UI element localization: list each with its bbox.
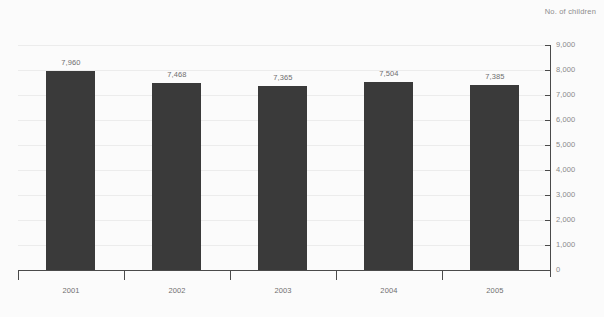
y-axis-label-4000: 4,000	[556, 165, 575, 174]
x-axis-label-2001: 2001	[41, 286, 101, 295]
x-axis-label-2003: 2003	[253, 286, 313, 295]
y-axis-label-0: 0	[556, 265, 560, 274]
y-axis-label-7000: 7,000	[556, 90, 575, 99]
y-axis-tick	[545, 245, 550, 246]
x-axis-tick	[230, 271, 231, 280]
y-axis-tick	[545, 145, 550, 146]
y-axis-tick	[545, 95, 550, 96]
y-axis-tick	[545, 195, 550, 196]
y-axis-tick	[545, 270, 550, 271]
x-axis-tick	[336, 271, 337, 280]
plot-area: 7,9607,4687,3657,5047,385	[18, 45, 550, 270]
y-axis-label-5000: 5,000	[556, 140, 575, 149]
y-axis-label-8000: 8,000	[556, 65, 575, 74]
bar-value-label: 7,365	[253, 73, 313, 82]
y-axis-label-9000: 9,000	[556, 40, 575, 49]
y-axis-label-1000: 1,000	[556, 240, 575, 249]
y-axis-label-2000: 2,000	[556, 215, 575, 224]
y-axis-line	[550, 45, 551, 277]
x-axis-tick	[442, 271, 443, 280]
bar	[470, 85, 519, 270]
bar	[258, 86, 307, 270]
x-axis-label-2002: 2002	[147, 286, 207, 295]
y-axis-tick	[545, 45, 550, 46]
gridline	[18, 70, 550, 71]
y-axis-label-3000: 3,000	[556, 190, 575, 199]
y-axis-tick	[545, 120, 550, 121]
x-axis-tick	[18, 271, 19, 280]
bar	[46, 71, 95, 270]
bar-value-label: 7,385	[465, 72, 525, 81]
axis-unit-label: No. of children	[545, 7, 596, 16]
y-axis-tick	[545, 170, 550, 171]
x-axis-label-2004: 2004	[359, 286, 419, 295]
gridline	[18, 45, 550, 46]
x-axis-line	[18, 270, 550, 271]
y-axis-tick	[545, 220, 550, 221]
bar-value-label: 7,960	[41, 58, 101, 67]
y-axis-label-6000: 6,000	[556, 115, 575, 124]
y-axis-tick	[545, 70, 550, 71]
bar-value-label: 7,504	[359, 69, 419, 78]
bar-chart: No. of children 7,9607,4687,3657,5047,38…	[0, 0, 604, 317]
bar	[364, 82, 413, 270]
x-axis-label-2005: 2005	[465, 286, 525, 295]
x-axis-tick	[124, 271, 125, 280]
bar-value-label: 7,468	[147, 70, 207, 79]
bar	[152, 83, 201, 270]
